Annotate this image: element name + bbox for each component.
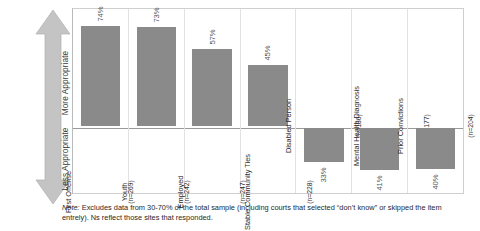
category-name: Disabled Person [254,99,324,153]
bar-value-label: 74% [73,3,128,25]
bar-column: 40%Prior Convictions(n=204) [408,9,463,193]
bar-value-label: 33% [296,164,351,186]
axis-label-more-appropriate: More Appropriate [34,44,72,122]
bar-value-text: 45% [257,45,279,60]
chart-footnote: Note: Excludes data from 30-70% of the t… [62,203,462,223]
category-label: Prior Convictions(n=204) [408,56,463,126]
bar-value-label: 73% [129,4,184,26]
footnote-text: Excludes data from 30-70% of the total s… [62,203,442,222]
plot-area: 74%First Offense(n=269)73%Youth(n=242)57… [72,8,464,194]
bar-value-label: 41% [352,172,407,194]
bar [81,26,120,126]
bar-column: 73%Youth(n=242) [129,9,185,193]
bar-column: 74%First Offense(n=269) [73,9,129,193]
bar-value-text: 73% [145,7,167,22]
footnote-prefix: Note: [62,203,80,212]
category-name: Youth [94,180,156,204]
category-label-text: Prior Convictions(n=204) [366,98,480,154]
bar-value-label: 40% [408,171,463,193]
bar-value-label: 57% [185,26,240,48]
bar [137,27,176,126]
category-n-value: (n=204) [436,98,480,154]
bar-value-text: 40% [425,174,447,189]
bar [192,49,231,126]
bar-value-text: 33% [313,167,335,182]
bar-value-text: 57% [201,29,223,44]
bar-value-text: 41% [369,175,391,190]
category-name: Prior Convictions [366,98,436,154]
bar-value-label: 45% [241,42,296,64]
bar-columns: 74%First Offense(n=269)73%Youth(n=242)57… [73,9,463,193]
bar-value-text: 74% [89,6,111,21]
